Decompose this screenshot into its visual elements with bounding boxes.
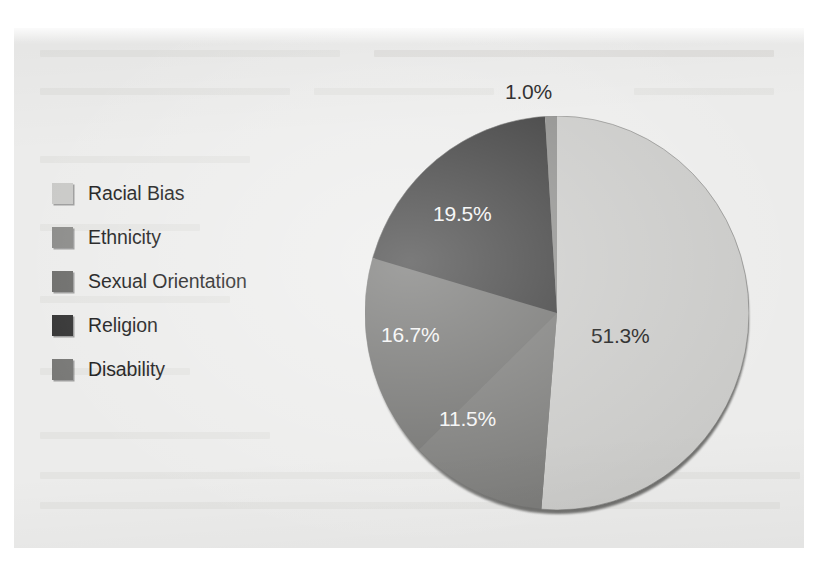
pie-label-sexual-orientation: 16.7% [381,323,440,347]
paper-top-highlight [14,28,804,44]
legend-item-sexual-orientation[interactable]: Sexual Orientation [52,259,302,303]
legend-item-ethnicity[interactable]: Ethnicity [52,215,302,259]
legend-label-sexual-orientation: Sexual Orientation [88,270,247,293]
legend-swatch-sexual-orientation [52,271,73,292]
paper-bleed-line [40,432,270,439]
pie-slice-racial-bias[interactable] [541,116,749,510]
legend-label-ethnicity: Ethnicity [88,226,161,249]
legend-swatch-disability [52,359,73,380]
figure-scan-area: Racial Bias Ethnicity Sexual Orientation… [14,28,804,548]
legend-swatch-ethnicity [52,227,73,248]
pie-chart: 1.0% 19.5% 16.7% 11.5% 51.3% [339,80,779,540]
pie-label-racial-bias: 51.3% [591,324,650,348]
chart-legend: Racial Bias Ethnicity Sexual Orientation… [52,171,302,391]
scanned-page: Racial Bias Ethnicity Sexual Orientation… [0,0,818,582]
pie-slices [365,116,749,510]
legend-label-religion: Religion [88,314,158,337]
legend-swatch-religion [52,315,73,336]
legend-item-disability[interactable]: Disability [52,347,302,391]
legend-item-religion[interactable]: Religion [52,303,302,347]
pie-label-disability: 11.5% [439,407,496,431]
paper-bleed-line [40,50,340,57]
paper-bleed-line [40,156,250,163]
legend-label-racial-bias: Racial Bias [88,182,184,205]
pie-label-ethnicity: 1.0% [505,80,552,104]
legend-item-racial-bias[interactable]: Racial Bias [52,171,302,215]
pie-label-religion: 19.5% [433,202,492,226]
paper-bleed-line [40,88,290,95]
page-bottom-margin [0,556,818,582]
paper-bleed-line [374,50,774,57]
legend-swatch-racial-bias [52,183,73,204]
legend-label-disability: Disability [88,358,165,381]
